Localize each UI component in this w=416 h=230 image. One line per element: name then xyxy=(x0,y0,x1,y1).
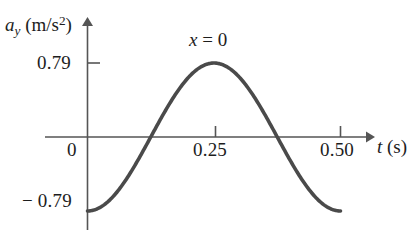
x-tick-label-025: 0.25 xyxy=(193,140,227,159)
y-tick-label-079: 0.79 xyxy=(37,53,71,72)
y-tick-label-negative-079: − 0.79 xyxy=(22,191,72,210)
x-axis-title: t (s) xyxy=(377,137,407,156)
y-axis-symbol: a xyxy=(5,14,15,35)
y-axis-units-exponent: 2 xyxy=(59,13,66,28)
y-axis-units-close: ) xyxy=(66,14,72,35)
annotation-equals-value: = 0 xyxy=(197,29,227,50)
x-axis-arrowhead xyxy=(366,132,375,143)
x-tick-label-050: 0.50 xyxy=(320,140,354,159)
y-axis-title: ay (m/s2) xyxy=(5,14,72,38)
y-axis-units-open: (m/s xyxy=(20,14,59,35)
y-axis-arrowhead xyxy=(82,17,93,26)
curve-annotation-x-equals-0: x = 0 xyxy=(189,30,227,49)
x-tick-label-0: 0 xyxy=(67,140,77,159)
acceleration-vs-time-figure: ay (m/s2) 0.79 − 0.79 0 0.25 0.50 t (s) … xyxy=(0,0,416,230)
x-axis-units: (s) xyxy=(382,136,407,157)
